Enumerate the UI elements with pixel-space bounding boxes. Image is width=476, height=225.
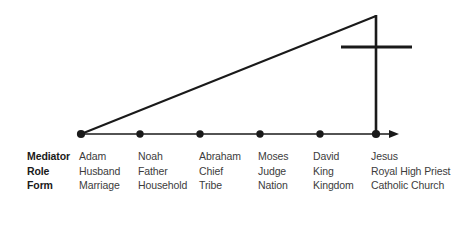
cell-form-tribe: Tribe [199, 179, 222, 191]
timeline-diagram [0, 0, 476, 150]
cell-mediator-jesus: Jesus [371, 150, 398, 162]
timeline-point [136, 130, 143, 137]
figure-canvas: Mediator Adam Noah Abraham Moses David J… [0, 0, 476, 225]
cell-mediator-david: David [313, 150, 339, 162]
cell-mediator-noah: Noah [138, 150, 163, 162]
cell-form-household: Household [138, 179, 187, 191]
timeline-point [256, 130, 263, 137]
cell-role-king: King [313, 165, 334, 177]
cell-form-catholic-church: Catholic Church [371, 179, 444, 191]
timeline-point [77, 130, 85, 138]
cell-mediator-moses: Moses [258, 150, 288, 162]
row-label-form: Form [27, 179, 53, 191]
cell-role-husband: Husband [79, 165, 120, 177]
ascending-line [81, 16, 376, 134]
row-label-mediator: Mediator [27, 150, 70, 162]
row-label-role: Role [27, 165, 49, 177]
timeline-point [372, 130, 380, 138]
cell-form-nation: Nation [258, 179, 288, 191]
legend-table: Mediator Adam Noah Abraham Moses David J… [0, 150, 476, 210]
timeline-point [196, 130, 203, 137]
cell-role-father: Father [138, 165, 168, 177]
table-row: Form Marriage Household Tribe Nation Kin… [0, 179, 476, 194]
timeline-point [316, 130, 323, 137]
table-row: Role Husband Father Chief Judge King Roy… [0, 165, 476, 180]
axis-arrowhead-icon [389, 130, 399, 138]
cell-role-chief: Chief [199, 165, 223, 177]
table-row: Mediator Adam Noah Abraham Moses David J… [0, 150, 476, 165]
cell-form-kingdom: Kingdom [313, 179, 354, 191]
cell-role-judge: Judge [258, 165, 286, 177]
cell-mediator-abraham: Abraham [199, 150, 241, 162]
cell-role-royal-high-priest: Royal High Priest [371, 165, 450, 177]
cell-form-marriage: Marriage [79, 179, 120, 191]
cell-mediator-adam: Adam [79, 150, 106, 162]
